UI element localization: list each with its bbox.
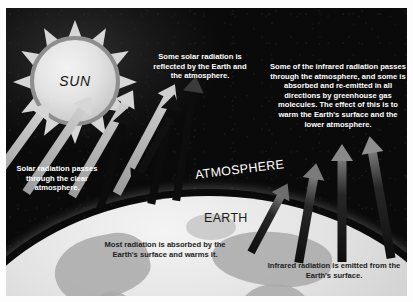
annotation-infrared: Some of the infrared radiation passes th… (268, 62, 407, 129)
annotation-emitted: Infrared radiation is emitted from the E… (264, 261, 404, 280)
greenhouse-effect-diagram: SUN (6, 8, 407, 296)
annotation-absorbed: Most radiation is absorbed by the Earth'… (102, 240, 228, 259)
annotation-solar-incoming: Solar radiation passes through the clear… (12, 164, 102, 193)
earth-label: EARTH (204, 211, 248, 225)
annotation-reflected: Some solar radiation is reflected by the… (150, 52, 250, 81)
diagram-frame: SUN (0, 0, 413, 302)
emitted-infrared-arrows (242, 134, 402, 264)
